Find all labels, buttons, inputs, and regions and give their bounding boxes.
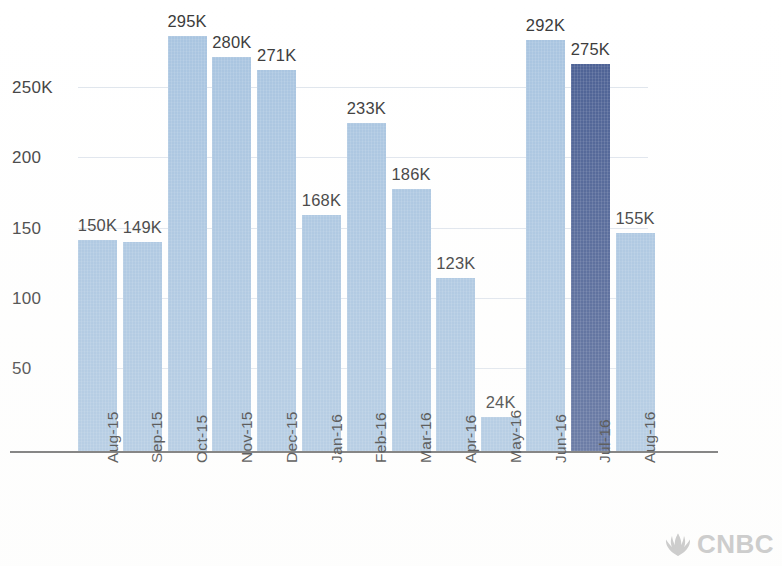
x-axis-label-apr-16: Apr-16 [462,415,480,463]
bar-texture [571,64,610,451]
bar-jul-16[interactable] [571,64,610,451]
bar-texture [526,40,565,451]
x-axis-label-dec-15: Dec-15 [283,411,301,463]
peacock-icon [665,533,691,557]
cnbc-wordmark: CNBC [697,529,774,560]
bar-value-label-sep-15: 149K [110,218,175,237]
x-axis-label-nov-15: Nov-15 [238,411,256,463]
x-axis-label-jun-16: Jun-16 [552,414,570,463]
y-axis-tick-150: 150 [12,219,72,239]
x-axis-label-jul-16: Jul-16 [596,419,614,463]
bar-value-label-jun-16: 292K [513,16,578,35]
x-axis-label-oct-15: Oct-15 [193,415,211,463]
x-axis-label-mar-16: Mar-16 [417,412,435,463]
bar-value-label-oct-15: 295K [155,12,220,31]
bar-jun-16[interactable] [526,40,565,451]
bar-dec-15[interactable] [257,70,296,451]
y-axis-tick-250k: 250K [12,78,72,98]
x-axis-label-aug-16: Aug-16 [641,411,659,463]
y-axis-tick-200: 200 [12,148,72,168]
x-axis-label-may-16: May-16 [507,410,525,463]
bar-nov-15[interactable] [212,57,251,451]
bar-value-label-dec-15: 271K [244,46,309,65]
bar-value-label-feb-16: 233K [334,99,399,118]
bar-oct-15[interactable] [168,36,207,451]
x-axis-label-sep-15: Sep-15 [148,411,166,463]
bar-value-label-jul-16: 275K [558,40,623,59]
x-axis-label-jan-16: Jan-16 [328,414,346,463]
plot-area: 250K 200 150 100 50 150K149K295K280K271K… [0,0,782,566]
x-axis-label-feb-16: Feb-16 [372,412,390,463]
x-axis-label-aug-15: Aug-15 [104,411,122,463]
bar-texture [212,57,251,451]
bar-texture [257,70,296,451]
bar-value-label-jan-16: 168K [289,191,354,210]
bar-chart: 250K 200 150 100 50 150K149K295K280K271K… [0,0,782,566]
y-axis-tick-100: 100 [12,289,72,309]
bar-value-label-aug-16: 155K [603,209,668,228]
bar-value-label-mar-16: 186K [379,165,444,184]
bar-value-label-apr-16: 123K [423,254,488,273]
cnbc-logo: CNBC [665,529,774,560]
bar-texture [168,36,207,451]
y-axis-tick-50: 50 [12,359,72,379]
